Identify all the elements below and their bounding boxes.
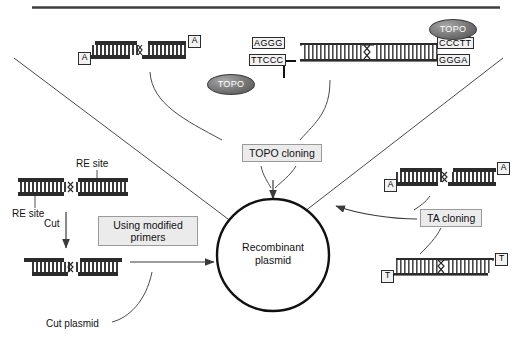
topo-cloning-label: TOPO cloning [242, 144, 322, 162]
topo-enzyme-right: TOPO [429, 19, 477, 40]
re-site-bottom-label: RE site [12, 208, 44, 219]
overhang-tag-a-ta-left: A [384, 179, 397, 192]
ta-feed-curve-bottom [420, 228, 441, 254]
topo-out-curve-left [261, 166, 271, 188]
dna-ta-insert [394, 168, 496, 186]
sequence-box-topo-left-bottom: TTCCC [249, 54, 286, 66]
modified-primers-label: Using modified primers [98, 216, 198, 246]
cut-label: Cut [44, 218, 60, 229]
dna-topo-vector [284, 32, 452, 78]
figure-canvas: A A AGGG TTCCC CCCTT GGGA TOPO TOPO TOPO… [0, 0, 521, 346]
cut-plasmid-leader [112, 272, 152, 322]
topo-enzyme-left-label: TOPO [208, 75, 254, 94]
ta-to-plasmid-arrow [336, 206, 417, 219]
recombinant-plasmid-line1: Recombinant [223, 241, 323, 254]
topo-out-curve-right [275, 166, 296, 188]
overhang-tag-t-vector-right: T [495, 253, 508, 266]
overhang-tag-a-ta-right: A [497, 162, 510, 175]
ta-feed-curve-top [414, 196, 430, 210]
dna-ta-vector [390, 258, 494, 276]
topo-enzyme-left: TOPO [207, 74, 255, 95]
dna-cut-plasmid [24, 258, 122, 276]
sequence-box-topo-right-bottom: GGGA [437, 54, 470, 66]
overhang-tag-a-pcr-right: A [188, 35, 201, 48]
overhang-tag-a-pcr-left: A [78, 52, 91, 65]
sequence-box-topo-left-top: AGGG [252, 37, 285, 49]
topo-link-left [284, 61, 296, 78]
re-site-top-label: RE site [76, 158, 108, 169]
funnel-line-left [14, 58, 232, 222]
dna-re-insert [18, 178, 128, 196]
ta-cloning-label: TA cloning [420, 209, 482, 227]
dna-pcr-product-a-overhang [88, 41, 186, 59]
overhang-tag-t-vector-left: T [381, 270, 394, 283]
recombinant-plasmid-line2: plasmid [223, 254, 323, 267]
recombinant-plasmid-label: Recombinant plasmid [223, 241, 323, 267]
topo-enzyme-right-label: TOPO [430, 20, 476, 39]
cut-plasmid-label: Cut plasmid [46, 318, 99, 329]
topo-feed-curve-right [300, 80, 330, 140]
